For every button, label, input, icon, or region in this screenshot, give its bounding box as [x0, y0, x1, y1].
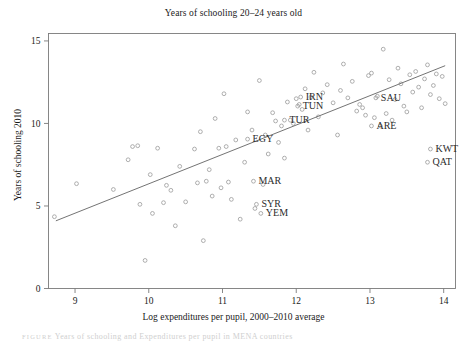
trendline: [56, 66, 445, 221]
figure-caption-prefix: FIGURE: [22, 333, 53, 340]
data-point: [193, 147, 197, 151]
data-point: [429, 93, 433, 97]
data-point: [271, 111, 275, 115]
data-point: [111, 188, 115, 192]
labeled-data-point: [299, 95, 303, 99]
data-point: [243, 160, 247, 164]
scatter-plot-canvas: 91011121314051015 IRNTUNTUREGYMARSYRYEMS…: [0, 0, 467, 343]
country-label-egy: EGY: [253, 133, 274, 144]
data-point: [396, 66, 400, 70]
data-point: [336, 133, 340, 137]
data-point: [285, 100, 289, 104]
data-point: [222, 92, 226, 96]
axis-ticks: 91011121314051015: [31, 36, 449, 305]
labeled-data-point: [255, 202, 259, 206]
data-point: [426, 63, 430, 67]
data-point: [196, 181, 200, 185]
data-point: [342, 62, 346, 66]
data-point: [266, 152, 270, 156]
data-point: [443, 102, 447, 106]
data-point: [178, 164, 182, 168]
data-point: [417, 85, 421, 89]
country-label-kwt: KWT: [435, 143, 458, 154]
data-point: [312, 70, 316, 74]
data-point: [201, 239, 205, 243]
data-point: [143, 259, 147, 263]
data-point: [370, 71, 374, 75]
data-point: [138, 202, 142, 206]
y-tick-label: 10: [31, 119, 41, 129]
data-point: [173, 224, 177, 228]
data-point: [238, 217, 242, 221]
data-point: [364, 113, 368, 117]
data-point: [339, 89, 343, 93]
data-point: [75, 182, 79, 186]
data-point: [257, 79, 261, 83]
x-tick-label: 14: [439, 296, 449, 306]
data-point: [434, 72, 438, 76]
data-point: [184, 200, 188, 204]
x-tick-label: 10: [144, 296, 154, 306]
y-tick-label: 15: [31, 36, 41, 46]
labeled-data-point: [246, 137, 250, 141]
labeled-data-point: [252, 179, 256, 183]
labeled-data-point: [429, 147, 433, 151]
data-point: [325, 83, 329, 87]
data-point: [165, 183, 169, 187]
labeled-data-point: [426, 160, 430, 164]
data-point: [156, 146, 160, 150]
labeled-data-point: [283, 118, 287, 122]
figure-container: Years of schooling 20–24 years old 91011…: [0, 0, 467, 343]
data-point: [361, 106, 365, 110]
y-axis-label: Years of schooling 2010: [13, 85, 23, 225]
x-tick-label: 11: [218, 296, 227, 306]
data-point: [331, 101, 335, 105]
data-point: [294, 97, 298, 101]
labeled-data-point: [370, 124, 374, 128]
country-label-tur: TUR: [289, 114, 309, 125]
data-point: [283, 156, 287, 160]
data-point: [350, 79, 354, 83]
data-point: [253, 207, 257, 211]
data-point: [411, 90, 415, 94]
data-point: [423, 77, 427, 81]
data-point: [274, 119, 278, 123]
data-point: [387, 78, 391, 82]
country-label-are: ARE: [376, 120, 396, 131]
figure-caption: FIGURE Years of schooling and Expenditur…: [0, 332, 467, 343]
data-point: [136, 144, 140, 148]
data-point: [408, 73, 412, 77]
x-axis-label: Log expenditures per pupil, 2000–2010 av…: [0, 312, 467, 322]
data-point: [277, 141, 281, 145]
data-point: [306, 128, 310, 132]
data-point: [229, 197, 233, 201]
data-point: [420, 106, 424, 110]
data-point: [224, 145, 228, 149]
data-point: [384, 112, 388, 116]
data-point: [246, 110, 250, 114]
country-labels: IRNTUNTUREGYMARSYRYEMSAUAREKWTQAT: [246, 91, 459, 218]
data-point: [402, 104, 406, 108]
data-point: [381, 47, 385, 51]
data-point: [234, 138, 238, 142]
data-point: [213, 117, 217, 121]
data-point: [210, 194, 214, 198]
data-point: [126, 158, 130, 162]
country-label-tun: TUN: [303, 100, 324, 111]
data-point: [437, 97, 441, 101]
data-point: [162, 201, 166, 205]
data-point: [131, 145, 135, 149]
data-point: [207, 168, 211, 172]
data-point: [414, 70, 418, 74]
data-point: [198, 130, 202, 134]
data-point: [148, 173, 152, 177]
data-point: [405, 110, 409, 114]
data-point: [431, 84, 435, 88]
data-point: [250, 128, 254, 132]
data-points: [53, 47, 448, 262]
data-point: [355, 109, 359, 113]
y-tick-label: 0: [36, 284, 41, 294]
data-point: [358, 103, 362, 107]
country-label-yem: YEM: [266, 207, 288, 218]
data-point: [280, 124, 284, 128]
